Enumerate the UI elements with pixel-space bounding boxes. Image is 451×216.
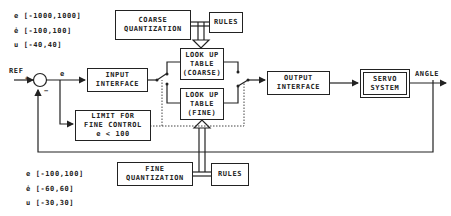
fine-range-e-dot: ė [-60,60] [26,185,74,194]
lut-coarse-line3: (COARSE) [183,69,222,78]
lut-fine-line2: TABLE [190,100,214,109]
input-switch [157,74,166,80]
output-interface-line1: OUTPUT [284,74,313,83]
output-interface-line2: INTERFACE [277,83,320,92]
lut-coarse-line1: LOOK UP [185,51,219,60]
coarse-range-u: u [-40,40] [14,41,62,50]
coarse-quantization-line1: COARSE [139,16,168,25]
limit-line3: e < 100 [96,130,130,139]
rules-top-label: RULES [214,18,238,27]
output-interface-block: OUTPUT INTERFACE [267,71,330,95]
input-interface-line2: INTERFACE [96,80,139,89]
lut-coarse-line2: TABLE [190,60,214,69]
fine-quantization-line1: FINE [145,165,164,174]
angle-label: ANGLE [415,70,439,79]
limit-fine-control-block: LIMIT FOR FINE CONTROL e < 100 [75,110,151,141]
limit-branch [60,80,73,124]
fine-quantization-block: FINE QUANTIZATION [117,162,193,186]
plus-sign: + [25,73,29,82]
rules-bottom-label: RULES [218,170,242,179]
input-interface-block: INPUT INTERFACE [87,68,148,92]
coarse-quantization-block: COARSE QUANTIZATION [115,10,191,40]
coarse-range-e-dot: ė [-100,100] [14,27,72,36]
servo-system-block: SERVO SYSTEM [363,72,407,95]
lut-fine-line1: LOOK UP [185,91,219,100]
ref-label: REF [9,67,23,76]
fine-range-e: e [-100,100] [26,170,84,179]
minus-sign: − [44,87,49,96]
coarse-quantization-line2: QUANTIZATION [124,25,182,34]
servo-line2: SYSTEM [371,84,400,93]
lut-fine-line3: (FINE) [188,109,217,118]
rules-top-block: RULES [209,12,243,33]
rules-bottom-block: RULES [211,163,249,186]
limit-line1: LIMIT FOR [91,112,134,121]
summing-junction [34,74,47,87]
coarse-range-e: e [-1000,1000] [14,12,81,21]
lut-coarse-block: LOOK UP TABLE (COARSE) [180,48,224,80]
input-interface-line1: INPUT [105,71,129,80]
fine-range-u: u [-30,30] [26,199,74,208]
servo-line1: SERVO [373,75,397,84]
fine-quantization-line2: QUANTIZATION [126,174,184,183]
error-label: e [60,70,65,79]
lut-fine-block: LOOK UP TABLE (FINE) [180,88,224,120]
output-switch [238,80,248,86]
limit-line2: FINE CONTROL [84,121,142,130]
